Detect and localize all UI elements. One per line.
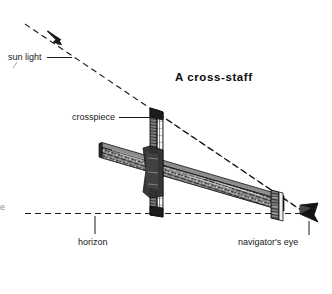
label-horizon: horizon: [78, 238, 108, 247]
stray-tick: [13, 62, 17, 68]
cropped-edge-glyph: e: [0, 203, 5, 212]
page-title: A cross-staff: [175, 72, 253, 84]
label-sun-light: sun light: [8, 53, 42, 62]
crosspiece-bar: [143, 108, 163, 217]
cross-staff-diagram: [0, 0, 332, 294]
label-crosspiece: crosspiece: [72, 113, 115, 122]
sun-ray-line: [25, 24, 307, 214]
leader-lines: [47, 58, 309, 236]
eye-vane-icon: [300, 203, 318, 222]
label-navigators-eye: navigator's eye: [238, 238, 298, 247]
staff-bar: [99, 143, 284, 212]
sight-vane: [271, 190, 283, 221]
arrow-down-right-icon: [47, 30, 62, 45]
